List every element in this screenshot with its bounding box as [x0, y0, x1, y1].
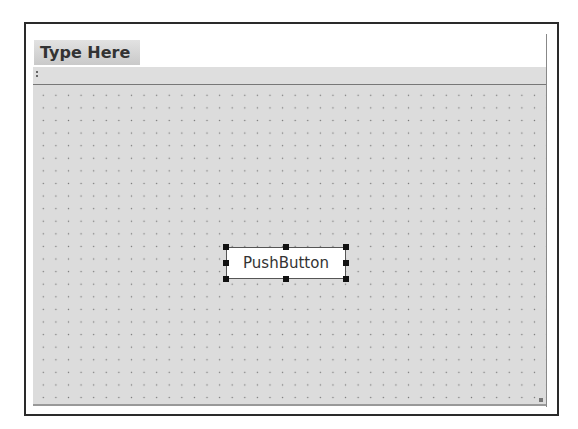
toolbar-area — [33, 67, 547, 85]
resize-handle-left[interactable] — [223, 260, 229, 266]
form-canvas[interactable] — [33, 85, 546, 406]
resize-handle-top-right[interactable] — [343, 244, 349, 250]
resize-handle-top[interactable] — [283, 244, 289, 250]
resize-handle-bottom[interactable] — [283, 276, 289, 282]
size-grip-icon[interactable] — [539, 398, 543, 402]
menubar-type-here[interactable]: Type Here — [34, 40, 140, 65]
right-border-line — [546, 34, 547, 407]
resize-handle-bottom-right[interactable] — [343, 276, 349, 282]
resize-handle-top-left[interactable] — [223, 244, 229, 250]
push-button-widget[interactable]: PushButton — [226, 247, 346, 279]
resize-handle-right[interactable] — [343, 260, 349, 266]
resize-handle-bottom-left[interactable] — [223, 276, 229, 282]
toolbar-grip-icon[interactable] — [36, 71, 38, 79]
